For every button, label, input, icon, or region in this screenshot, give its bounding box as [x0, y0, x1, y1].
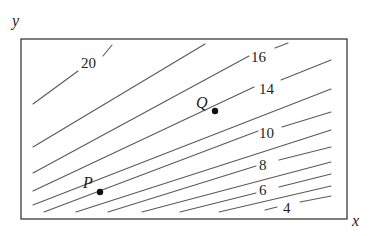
contour-label-16: 16 — [251, 49, 267, 65]
contour-label-20: 20 — [81, 55, 96, 71]
point-Q-marker — [212, 108, 218, 114]
contour-18 — [33, 44, 205, 147]
contour-12 — [33, 89, 331, 205]
contour-20: 20 — [33, 45, 112, 104]
contour-16: 16 — [33, 43, 288, 173]
point-P: P — [82, 174, 103, 195]
contour-label-6: 6 — [259, 182, 267, 198]
contour-label-8: 8 — [259, 157, 267, 173]
x-axis-label: x — [351, 212, 359, 229]
contour-label-4: 4 — [283, 200, 291, 216]
contour-diagram: y x 20 16 14 10 8 6 — [0, 0, 377, 236]
point-P-label: P — [82, 174, 93, 191]
contour-7 — [142, 162, 331, 212]
plot-frame — [21, 39, 347, 219]
contour-6: 6 — [180, 174, 331, 212]
point-Q-label: Q — [196, 94, 208, 111]
point-P-marker — [97, 189, 103, 195]
point-Q: Q — [196, 94, 218, 114]
contour-10: 10 — [44, 112, 331, 212]
contour-9 — [76, 130, 331, 212]
y-axis-label: y — [10, 12, 20, 30]
contour-label-14: 14 — [259, 81, 275, 97]
contour-label-10: 10 — [259, 125, 274, 141]
